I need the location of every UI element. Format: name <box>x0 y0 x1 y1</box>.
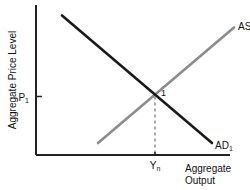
ad-curve <box>62 16 212 144</box>
x-axis-label-line-2: Output <box>185 175 215 186</box>
as-curve-label: AS1 <box>238 21 250 33</box>
equilibrium-point-label: 1 <box>161 88 166 98</box>
as-curve <box>98 28 234 144</box>
ad-curve-label: AD1 <box>215 140 233 152</box>
p1-tick-label: P1 <box>18 92 29 104</box>
y-axis-label: Aggregate Price Level <box>7 31 18 129</box>
aggregate-demand-supply-chart: Aggregate Price Level P1 Yn 1 AS1 AD1 Ag… <box>0 0 250 190</box>
yn-tick-label: Yn <box>150 160 161 172</box>
x-axis-label-line-1: Aggregate <box>185 163 232 174</box>
